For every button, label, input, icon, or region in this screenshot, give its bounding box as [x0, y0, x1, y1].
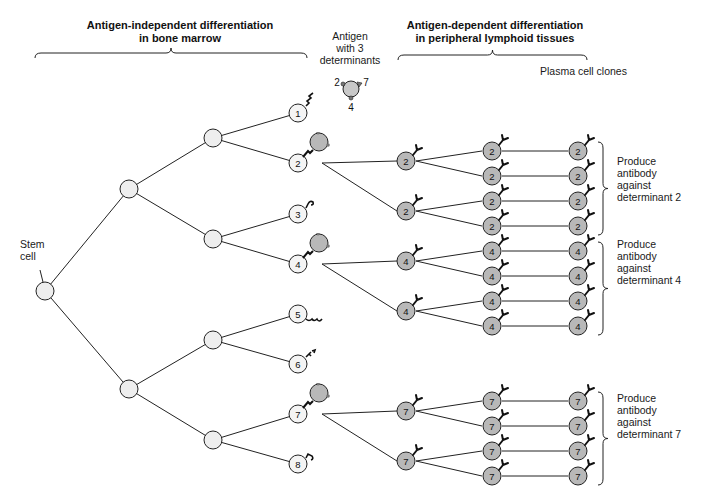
receptor-clone-7-gen2-4-shape: [499, 460, 508, 470]
clone-4-gen2-2-label: 4: [489, 271, 494, 282]
receptor-plasma-4-3-shape: [585, 285, 594, 295]
lineage-line: [416, 161, 482, 176]
clone-2-gen2-1-label: 2: [489, 146, 494, 157]
receptor-cell-1: [306, 93, 313, 106]
stem-cell-body: [36, 282, 54, 300]
brace-determinant-4: [598, 242, 608, 335]
header-right-line-1: Antigen-dependent differentiation: [395, 19, 595, 32]
receptor-clone-7-gen1-1: [413, 395, 422, 405]
progenitor-cell-2-body: [120, 380, 138, 398]
lineage-line: [416, 401, 482, 411]
receptor-clone-2-gen2-2: [499, 160, 508, 170]
bound-receptor-2: [303, 150, 313, 157]
stem-label-pointer: [40, 270, 43, 282]
receptor-clone-2-gen2-3: [499, 185, 508, 195]
clone-2-gen2-2-label: 2: [489, 171, 494, 182]
receptor-plasma-2-1: [585, 135, 594, 145]
receptor-clone-4-gen2-2-shape: [499, 260, 508, 270]
clone-4-gen1-2-label: 4: [403, 306, 408, 317]
lineage-line: [213, 440, 298, 464]
clone-7-gen1-1-label: 7: [403, 406, 408, 417]
bound-antigen-7: [310, 384, 328, 402]
progenitor-cell-2: [120, 380, 138, 398]
activation-line: [322, 414, 397, 461]
b-cell-8: 8: [289, 455, 307, 473]
receptor-clone-7-gen1-2-shape: [413, 445, 422, 455]
receptor-cell-5: [306, 319, 322, 321]
lineage-line: [213, 239, 298, 264]
outcome-label-determinant-7: Produce antibody against determinant 7: [617, 392, 681, 440]
lineage-line: [416, 151, 482, 161]
progenitor-cell-1-body: [120, 180, 138, 198]
receptor-clone-2-gen2-1: [499, 135, 508, 145]
clonal-selection-diagram: 1234567827422222222224444444444777777777…: [0, 0, 704, 489]
receptor-plasma-7-3-shape: [585, 435, 594, 445]
receptor-clone-7-gen2-3-shape: [499, 435, 508, 445]
receptor-clone-2-gen1-1: [413, 145, 422, 155]
antigen-caption: Antigen with 3 determinants: [318, 30, 382, 66]
lineage-line: [45, 189, 129, 291]
b-cell-8-label: 8: [295, 459, 300, 470]
receptor-clone-4-gen2-1-shape: [499, 235, 508, 245]
plasma-cell-7-4-label: 7: [575, 471, 580, 482]
lineage-line: [213, 314, 298, 340]
bound-antigen-7-site-a: [326, 394, 330, 398]
clone-2-gen1-1-label: 2: [403, 156, 408, 167]
lineage-line: [129, 340, 213, 389]
bound-receptor-4: [303, 251, 313, 258]
outcome-7-line-2: antibody: [617, 404, 681, 416]
precursor-cell-4-body: [204, 431, 222, 449]
outcome-label-determinant-4: Produce antibody against determinant 4: [617, 238, 681, 286]
clone-7-gen1-2-label: 7: [403, 456, 408, 467]
lineage-line: [213, 414, 298, 440]
stem-cell-label-line-2: cell: [20, 250, 45, 262]
receptor-plasma-2-2: [585, 160, 594, 170]
lineage-line: [416, 201, 482, 211]
b-cell-5: 5: [289, 305, 307, 323]
precursor-cell-1: [204, 129, 222, 147]
precursor-cell-2-body: [204, 230, 222, 248]
receptor-cell-3: [306, 201, 313, 208]
receptor-clone-4-gen1-2-shape: [413, 295, 422, 305]
activation-line: [322, 161, 397, 163]
outcome-2-line-1: Produce: [617, 155, 681, 167]
header-left-line-2: in bone marrow: [60, 32, 300, 45]
b-cell-6: 6: [289, 355, 307, 373]
receptor-clone-4-gen1-2: [413, 295, 422, 305]
lineage-line: [45, 291, 129, 389]
receptor-plasma-4-1-shape: [585, 235, 594, 245]
progenitor-cell-1: [120, 180, 138, 198]
receptor-plasma-2-3: [585, 185, 594, 195]
plasma-cell-clones-label: Plasma cell clones: [540, 65, 627, 77]
lineage-line: [213, 214, 298, 239]
receptor-clone-2-gen2-1-shape: [499, 135, 508, 145]
receptor-clone-7-gen2-2: [499, 410, 508, 420]
antigen-caption-line-3: determinants: [318, 54, 382, 66]
clone-2-gen2-3-label: 2: [489, 196, 494, 207]
receptor-plasma-4-2-shape: [585, 260, 594, 270]
b-cell-3-label: 3: [295, 209, 300, 220]
receptor-clone-4-gen2-3: [499, 285, 508, 295]
activation-line: [322, 264, 397, 311]
stem-cell-label: Stem cell: [20, 238, 45, 262]
receptor-clone-7-gen2-2-shape: [499, 410, 508, 420]
receptor-clone-2-gen2-4: [499, 210, 508, 220]
lineage-line: [416, 411, 482, 426]
plasma-cell-4-3-label: 4: [575, 296, 580, 307]
receptor-clone-2-gen2-3-shape: [499, 185, 508, 195]
precursor-cell-2: [204, 230, 222, 248]
brace-determinant-7: [598, 392, 608, 485]
receptor-plasma-7-4-shape: [585, 460, 594, 470]
b-cell-6-label: 6: [295, 359, 300, 370]
receptor-clone-2-gen2-4-shape: [499, 210, 508, 220]
antigen-determinant-label-7: 7: [363, 77, 369, 88]
receptor-clone-4-gen1-1-shape: [413, 245, 422, 255]
receptor-clone-4-gen2-4-shape: [499, 310, 508, 320]
antigen-determinant-4: [349, 96, 353, 100]
outcome-2-line-4: determinant 2: [617, 191, 681, 203]
precursor-cell-1-body: [204, 129, 222, 147]
lineage-line: [213, 113, 298, 138]
receptor-plasma-4-4-shape: [585, 310, 594, 320]
receptor-cell-8: [306, 454, 313, 460]
b-cell-1: 1: [289, 104, 307, 122]
